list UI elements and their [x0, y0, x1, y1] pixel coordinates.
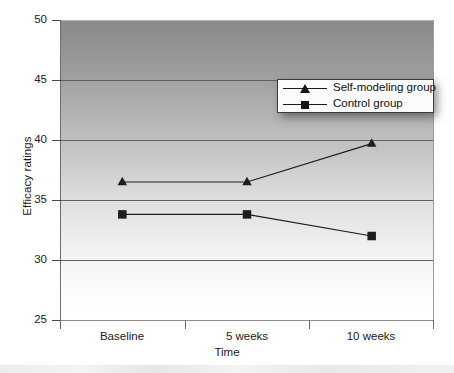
y-tick-label-45: 45 [3, 73, 47, 85]
x-axis-title: Time [0, 346, 454, 358]
scan-artifact [0, 365, 454, 373]
triangle-marker-icon [299, 83, 311, 94]
x-tick-0 [60, 320, 61, 329]
x-tick-3 [433, 320, 434, 329]
plot-area [60, 20, 434, 320]
y-tick-45 [52, 80, 61, 81]
y-tick-label-35: 35 [3, 193, 47, 205]
legend-label-control: Control group [333, 97, 403, 109]
y-tick-35 [52, 200, 61, 201]
legend-label-self-modeling: Self-modeling group [333, 81, 436, 93]
y-tick-50 [52, 20, 61, 21]
gridline-35 [60, 200, 434, 201]
y-tick-30 [52, 260, 61, 261]
y-tick-label-50: 50 [3, 13, 47, 25]
plot-border-right [433, 20, 434, 321]
square-marker-icon [299, 99, 311, 110]
plot-border-left [60, 20, 61, 321]
y-tick-label-25: 25 [3, 313, 47, 325]
chart-legend: Self-modeling group Control group [277, 79, 434, 113]
legend-item-self-modeling[interactable]: Self-modeling group [278, 80, 433, 97]
gridline-40 [60, 140, 434, 141]
plot-border-top [60, 20, 434, 21]
y-tick-label-30: 30 [3, 253, 47, 265]
y-axis-title: Efficacy ratings [21, 96, 33, 256]
gridline-30 [60, 260, 434, 261]
x-tick-1 [185, 320, 186, 329]
x-tick-label-5-weeks: 5 weeks [187, 330, 307, 342]
y-tick-40 [52, 140, 61, 141]
y-tick-label-40: 40 [3, 133, 47, 145]
x-tick-2 [309, 320, 310, 329]
legend-item-control[interactable]: Control group [278, 96, 433, 113]
x-axis-line [60, 320, 434, 321]
x-tick-label-10-weeks: 10 weeks [311, 330, 431, 342]
line-chart: Efficacy ratings 50 45 40 35 30 25 Basel… [0, 0, 454, 373]
x-tick-label-baseline: Baseline [62, 330, 182, 342]
